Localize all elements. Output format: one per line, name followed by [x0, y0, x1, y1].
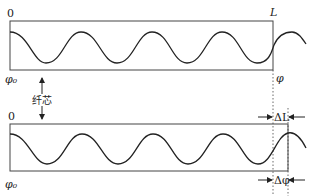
delta-length-label: ΔL	[274, 111, 290, 124]
top-wave	[10, 32, 306, 63]
bottom-phase-start-label: φ₀	[5, 178, 18, 191]
bottom-wave	[10, 133, 306, 164]
top-fiber-panel: 0 L φ₀ φ	[5, 6, 306, 86]
top-start-label: 0	[7, 7, 14, 20]
bottom-start-label: 0	[8, 110, 15, 123]
core-indicator: 纤芯	[32, 78, 52, 119]
top-phase-start-label: φ₀	[5, 73, 18, 86]
delta-length-annotation: ΔL	[258, 111, 305, 124]
delta-phase-annotation: Δφ	[258, 174, 305, 187]
fiber-phase-diagram: 0 L φ₀ φ 纤芯 0 φ₀ ΔL Δφ	[0, 0, 313, 196]
delta-phase-label: Δφ	[274, 174, 290, 187]
top-phase-end-label: φ	[276, 72, 284, 85]
bottom-fiber-panel: 0 φ₀	[5, 110, 306, 191]
bottom-fiber-box	[10, 124, 288, 171]
top-end-label: L	[269, 6, 277, 19]
core-label: 纤芯	[32, 94, 52, 106]
